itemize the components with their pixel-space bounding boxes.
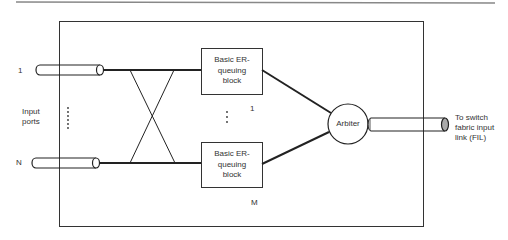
wire-block-1-to-arbiter — [262, 70, 331, 113]
input-ellipsis-icon — [67, 107, 69, 129]
input-port-n-label: N — [16, 158, 22, 168]
arbiter-label: Arbiter — [328, 119, 368, 129]
queuing-block-m-label: Basic ER- queuing block — [202, 149, 262, 181]
block-1-index: 1 — [250, 104, 254, 114]
input-port-n-cylinder — [32, 158, 100, 168]
output-link-cylinder — [368, 118, 449, 131]
output-link-label: To switch fabric input link (FIL) — [455, 113, 494, 143]
block-ellipsis-icon — [226, 111, 228, 123]
queuing-block-1-label: Basic ER- queuing block — [202, 55, 262, 87]
input-ports-label: Input ports — [22, 107, 40, 127]
input-port-1-cylinder — [36, 65, 104, 75]
top-rule — [16, 2, 495, 3]
input-port-1-label: 1 — [18, 66, 22, 76]
wire-block-m-to-arbiter — [262, 132, 329, 164]
block-m-index: M — [251, 198, 258, 208]
